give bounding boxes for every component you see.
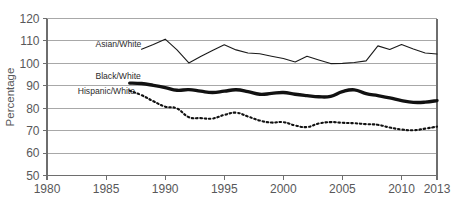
- y-axis-ticks: 5060708090100110120: [19, 12, 47, 183]
- x-tick-label: 2000: [270, 182, 297, 196]
- y-tick-label: 110: [20, 34, 39, 48]
- series-line-asian-white: [142, 39, 437, 63]
- y-tick-label: 90: [26, 79, 40, 93]
- x-tick-label: 2005: [329, 182, 356, 196]
- y-tick-label: 80: [26, 102, 40, 116]
- x-tick-label: 1995: [211, 182, 238, 196]
- series-label-hispanic-white: Hispanic/White: [78, 86, 136, 96]
- y-axis-title: Percentage: [4, 68, 16, 127]
- x-axis-ticks: 19801985199019952000200520102013: [34, 176, 451, 196]
- series-inline-labels: Asian/WhiteBlack/WhiteHispanic/White: [78, 39, 142, 96]
- data-series: [130, 39, 437, 130]
- x-tick-label: 1980: [34, 182, 61, 196]
- x-tick-label: 2010: [388, 182, 415, 196]
- x-tick-label: 2013: [424, 182, 451, 196]
- y-tick-label: 70: [26, 124, 40, 138]
- line-chart: 5060708090100110120 19801985199019952000…: [0, 0, 463, 205]
- x-tick-label: 1990: [152, 182, 179, 196]
- y-tick-label: 60: [26, 146, 40, 160]
- y-tick-label: 100: [19, 57, 39, 71]
- x-tick-label: 1985: [93, 182, 120, 196]
- chart-container: 5060708090100110120 19801985199019952000…: [0, 0, 463, 205]
- y-tick-label: 120: [19, 12, 39, 26]
- series-label-black-white: Black/White: [95, 71, 141, 81]
- series-label-asian-white: Asian/White: [95, 39, 141, 49]
